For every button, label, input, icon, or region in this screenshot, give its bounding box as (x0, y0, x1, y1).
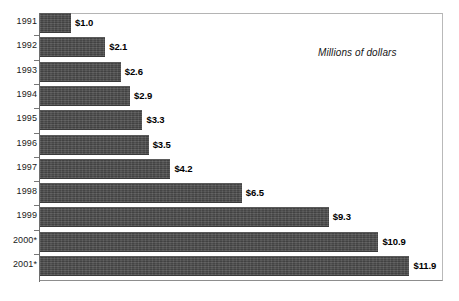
bar-row: 1999$9.3 (0, 207, 459, 227)
bar-row: 2001*$11.9 (0, 256, 459, 276)
axis-tick (34, 84, 39, 85)
bar-value-label: $3.5 (153, 139, 171, 150)
category-label-1994: 1994 (0, 89, 37, 100)
bar-value-label: $2.6 (125, 66, 143, 77)
bar-row: 1996$3.5 (0, 135, 459, 155)
bar-value-label: $4.2 (174, 163, 192, 174)
bar-1998[interactable] (40, 183, 242, 203)
axis-tick (34, 60, 39, 61)
bar-1995[interactable] (40, 110, 142, 130)
bar-row: 1997$4.2 (0, 159, 459, 179)
bar-row: 1995$3.3 (0, 110, 459, 130)
bar-row: 2000*$10.9 (0, 232, 459, 252)
category-label-1999: 1999 (0, 210, 37, 221)
bar-value-label: $11.9 (413, 260, 436, 271)
bar-2000est[interactable] (40, 232, 378, 252)
category-label-2000est: 2000* (0, 235, 37, 246)
bar-value-label: $9.3 (333, 211, 351, 222)
units-annotation: Millions of dollars (318, 47, 397, 58)
bar-1992[interactable] (40, 37, 105, 57)
bar-row: 1991$1.0 (0, 13, 459, 33)
category-label-1998: 1998 (0, 186, 37, 197)
bar-value-label: $2.9 (134, 90, 152, 101)
bar-row: 1993$2.6 (0, 62, 459, 82)
category-label-2001est: 2001* (0, 259, 37, 270)
axis-tick (34, 181, 39, 182)
bar-1997[interactable] (40, 159, 170, 179)
axis-tick (34, 230, 39, 231)
bar-1991[interactable] (40, 13, 71, 33)
bar-1993[interactable] (40, 62, 121, 82)
bar-value-label: $6.5 (246, 187, 264, 198)
bar-value-label: $2.1 (109, 41, 127, 52)
category-label-1991: 1991 (0, 16, 37, 27)
bar-1996[interactable] (40, 135, 149, 155)
category-label-1992: 1992 (0, 40, 37, 51)
bar-1999[interactable] (40, 207, 329, 227)
axis-tick (34, 133, 39, 134)
axis-tick (34, 108, 39, 109)
category-label-1993: 1993 (0, 65, 37, 76)
category-label-1996: 1996 (0, 138, 37, 149)
axis-tick (34, 157, 39, 158)
axis-tick (34, 205, 39, 206)
bar-row: 1998$6.5 (0, 183, 459, 203)
bar-row: 1994$2.9 (0, 86, 459, 106)
bar-chart: 1991$1.01992$2.11993$2.61994$2.91995$3.3… (0, 0, 459, 301)
bar-value-label: $10.9 (382, 236, 405, 247)
bar-value-label: $1.0 (75, 17, 93, 28)
category-label-1997: 1997 (0, 162, 37, 173)
bar-1994[interactable] (40, 86, 130, 106)
category-label-1995: 1995 (0, 113, 37, 124)
bar-value-label: $3.3 (146, 114, 164, 125)
axis-tick (34, 254, 39, 255)
axis-tick (34, 35, 39, 36)
bar-2001est[interactable] (40, 256, 409, 276)
